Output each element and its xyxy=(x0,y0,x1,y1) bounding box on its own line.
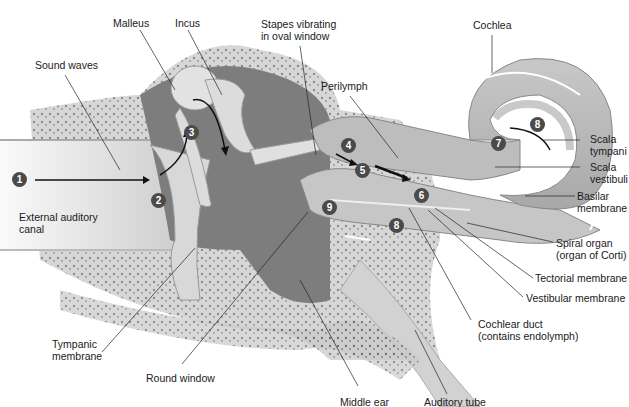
step-marker-6: 6 xyxy=(414,188,429,203)
label-middle-ear: Middle ear xyxy=(340,396,389,407)
label-tympanic-line1: Tympanic xyxy=(52,338,97,350)
label-scala-tympani-line1: Scala xyxy=(590,133,616,145)
label-basilar-line2: membrane xyxy=(577,202,627,214)
step-marker-4: 4 xyxy=(341,138,356,153)
label-external-canal-line1: External auditory xyxy=(19,211,98,223)
step-marker-5: 5 xyxy=(355,163,370,178)
label-cochlear-duct-line1: Cochlear duct xyxy=(478,318,543,330)
label-auditory-tube: Auditory tube xyxy=(424,396,486,407)
label-scala-tympani-line2: tympani xyxy=(590,145,627,157)
step-marker-9: 9 xyxy=(322,200,337,215)
label-stapes-line2: in oval window xyxy=(261,30,329,42)
label-spiral-organ-line1: Spiral organ xyxy=(556,237,613,249)
step-marker-8-upper: 8 xyxy=(530,117,545,132)
label-stapes-line1: Stapes vibrating xyxy=(261,18,336,30)
label-cochlea: Cochlea xyxy=(473,19,512,31)
step-marker-8-lower: 8 xyxy=(389,218,404,233)
label-vestibular-membrane: Vestibular membrane xyxy=(526,292,625,304)
label-incus: Incus xyxy=(175,17,200,29)
label-scala-vestibuli-line2: vestibuli xyxy=(590,173,628,185)
label-cochlear-duct-line2: (contains endolymph) xyxy=(478,330,578,342)
label-spiral-organ-line2: (organ of Corti) xyxy=(556,249,627,261)
label-external-canal-line2: canal xyxy=(19,223,44,235)
label-scala-vestibuli-line1: Scala xyxy=(590,161,616,173)
label-round-window: Round window xyxy=(146,372,215,384)
label-perilymph: Perilymph xyxy=(321,80,368,92)
step-marker-1: 1 xyxy=(12,172,27,187)
ear-diagram: Malleus Incus Stapes vibrating in oval w… xyxy=(0,0,629,407)
label-sound-waves: Sound waves xyxy=(35,59,98,71)
step-marker-2: 2 xyxy=(151,193,166,208)
step-marker-3: 3 xyxy=(184,125,199,140)
label-tympanic-line2: membrane xyxy=(52,350,102,362)
label-tectorial-membrane: Tectorial membrane xyxy=(535,272,627,284)
label-basilar-line1: Basilar xyxy=(577,190,609,202)
label-malleus: Malleus xyxy=(113,17,149,29)
step-marker-7: 7 xyxy=(491,136,506,151)
